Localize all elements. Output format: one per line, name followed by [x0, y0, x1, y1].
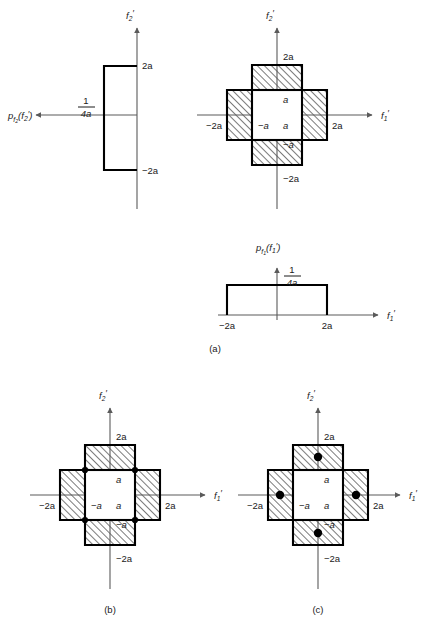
- panel-b-tick-bottom: −2a: [116, 553, 133, 564]
- panel-c-tick-bottom: −2a: [324, 553, 341, 564]
- panel-b-dot-2: [132, 467, 138, 473]
- marginal-f1-axis-label: f1′: [387, 308, 395, 322]
- panel-a-x-axis-label: f1′: [381, 108, 389, 122]
- panel-b-tick-left: −2a: [39, 500, 56, 511]
- panel-c-dot-bottom: [314, 529, 322, 537]
- panel-a-tick-bottom: −2a: [283, 173, 300, 184]
- panel-b-inner-bottom: −a: [116, 519, 127, 530]
- panel-c-inner-right: a: [324, 500, 329, 511]
- marginal-f1-tick-right: 2a: [322, 320, 333, 331]
- panel-a-inner-left: −a: [258, 120, 269, 131]
- caption-b: (b): [104, 604, 116, 615]
- panel-a-marginal-f2: f2′ 2a −2a 1 4a pf2(f2′): [7, 8, 159, 209]
- figure-root: f2′ 2a −2a 1 4a pf2(f2′) f1′: [0, 0, 430, 626]
- panel-c-dot-right: [352, 491, 360, 499]
- panel-c-y-axis-label: f2′: [307, 388, 315, 402]
- panel-b-inner-square: [85, 470, 135, 520]
- panel-a-tick-top: 2a: [283, 51, 294, 62]
- marginal-f1-tick-left: −2a: [219, 320, 236, 331]
- panel-c-inner-bottom: −a: [324, 519, 335, 530]
- panel-b-inner-top: a: [116, 474, 121, 485]
- panel-b-y-axis-label: f2′: [99, 388, 107, 402]
- panel-c-inner-left: −a: [299, 500, 310, 511]
- panel-b-dot-1: [82, 467, 88, 473]
- panel-a-tick-left: −2a: [206, 120, 223, 131]
- technical-figure: f2′ 2a −2a 1 4a pf2(f2′) f1′: [0, 0, 430, 626]
- panel-a-y-axis-label: f2′: [266, 8, 274, 22]
- panel-b-tick-right: 2a: [165, 500, 176, 511]
- panel-b-dot-3: [82, 517, 88, 523]
- panel-a-inner-bottom: −a: [283, 139, 294, 150]
- marginal-f1-height-denominator: 4a: [287, 277, 298, 288]
- panel-c-x-axis-label: f1′: [409, 488, 417, 502]
- panel-a-tick-right: 2a: [332, 120, 343, 131]
- panel-c-tick-left: −2a: [247, 500, 264, 511]
- marginal-f1-height-numerator: 1: [289, 264, 294, 275]
- panel-b-x-axis-label: f1′: [214, 488, 222, 502]
- marginal-f2-pdf-rectangle: [104, 66, 137, 170]
- panel-b: f1′ f2′ 2a −2a −2a 2a a −a −a a: [30, 388, 222, 589]
- panel-c-inner-square: [293, 470, 343, 520]
- panel-c-dot-left: [276, 491, 284, 499]
- panel-c: f1′ f2′ 2a −2a −2a 2a a −a −a a: [238, 388, 417, 589]
- panel-a-marginal-f1: pf1(f1′) 1 4a −2a 2a f1′: [218, 241, 395, 331]
- marginal-f2-tick-top: 2a: [142, 60, 153, 71]
- panel-a-inner-square: [252, 90, 302, 140]
- panel-c-inner-top: a: [324, 474, 329, 485]
- panel-b-inner-right: a: [116, 500, 121, 511]
- panel-b-inner-left: −a: [91, 500, 102, 511]
- panel-c-tick-top: 2a: [324, 431, 335, 442]
- caption-a: (a): [209, 343, 221, 354]
- panel-b-tick-top: 2a: [116, 431, 127, 442]
- marginal-f2-height-denominator: 4a: [81, 108, 92, 119]
- panel-a-inner-right: a: [283, 120, 288, 131]
- marginal-f2-axis-label: f2′: [126, 8, 134, 22]
- caption-c: (c): [312, 604, 323, 615]
- panel-a-inner-top: a: [283, 94, 288, 105]
- panel-c-dot-top: [314, 453, 322, 461]
- marginal-f1-pdf-label: pf1(f1′): [255, 241, 280, 256]
- marginal-f2-height-numerator: 1: [83, 95, 88, 106]
- marginal-f2-tick-bottom: −2a: [142, 165, 159, 176]
- panel-a-joint-region: f1′ f2′ 2a −2a −2a 2a a −a −a a: [197, 8, 389, 209]
- marginal-f2-pdf-label: pf2(f2′): [7, 109, 32, 124]
- panel-c-tick-right: 2a: [373, 500, 384, 511]
- panel-b-dot-4: [132, 517, 138, 523]
